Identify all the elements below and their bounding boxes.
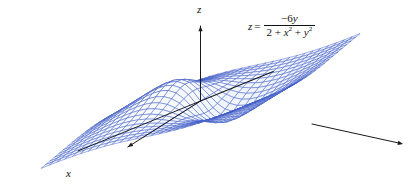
equation-denominator: 2 + x2 + y2: [264, 26, 316, 39]
equation-annotation: z = −6y 2 + x2 + y2: [248, 13, 315, 38]
surface-plot-canvas: [0, 0, 409, 190]
axis-label-x: x: [66, 168, 71, 179]
surface-plot-figure: z x z = −6y 2 + x2 + y2: [0, 0, 409, 190]
equation-relation: =: [254, 20, 260, 32]
equation-fraction: −6y 2 + x2 + y2: [264, 13, 316, 38]
equation-lhs: z: [248, 20, 252, 32]
axis-label-z: z: [197, 4, 201, 15]
equation-numerator: −6y: [278, 13, 301, 25]
